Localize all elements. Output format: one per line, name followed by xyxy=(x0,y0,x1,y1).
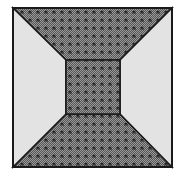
center-square xyxy=(66,60,120,114)
frustum-diagram xyxy=(0,0,179,179)
frustum-svg xyxy=(0,0,179,179)
